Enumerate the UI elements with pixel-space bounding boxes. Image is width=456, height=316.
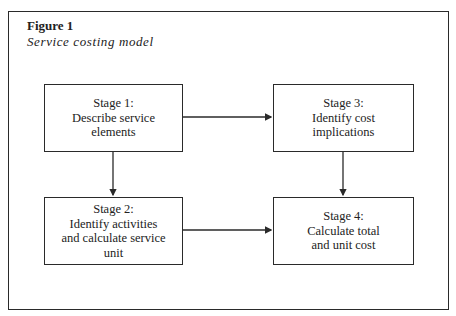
stage-2-heading: Stage 2: [93,202,134,217]
stage-3-heading: Stage 3: [323,96,364,111]
stage-4-box: Stage 4: Calculate total and unit cost [273,197,414,265]
stage-3-box: Stage 3: Identify cost implications [273,84,414,152]
stage-4-heading: Stage 4: [323,209,364,224]
stage-2-line-2: and calculate service [61,231,165,246]
connector-arrows [0,0,456,316]
stage-1-line-2: elements [91,125,135,140]
stage-1-line-1: Describe service [72,111,155,126]
stage-2-line-3: unit [104,246,123,261]
stage-1-heading: Stage 1: [93,96,134,111]
stage-2-box: Stage 2: Identify activities and calcula… [44,197,183,265]
stage-4-line-1: Calculate total [307,224,380,239]
stage-2-line-1: Identify activities [70,217,158,232]
stage-3-line-1: Identify cost [312,111,375,126]
stage-3-line-2: implications [313,125,375,140]
stage-1-box: Stage 1: Describe service elements [44,84,183,152]
stage-4-line-2: and unit cost [312,238,376,253]
